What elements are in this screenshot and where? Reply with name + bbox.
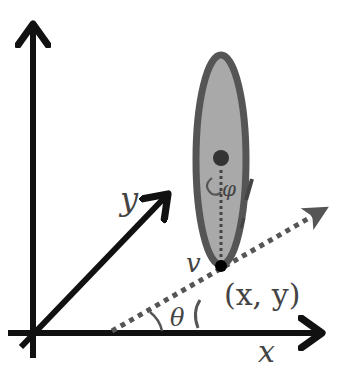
y-axis	[21, 194, 168, 347]
y-axis-label: y	[118, 180, 139, 218]
theta-paren-mark	[195, 300, 200, 328]
position-label: (x, y)	[224, 277, 300, 312]
center-dot	[213, 150, 229, 166]
phi-label: φ	[222, 177, 236, 201]
theta-angle-arc	[150, 312, 162, 331]
x-axis-label: x	[258, 334, 275, 369]
theta-label: θ	[170, 304, 185, 332]
position-dot	[215, 260, 227, 272]
diagram-canvas: y x (x, y) θ v φ	[0, 0, 343, 372]
coordinate-diagram: y x (x, y) θ v φ	[0, 0, 343, 372]
velocity-label: v	[186, 248, 201, 278]
